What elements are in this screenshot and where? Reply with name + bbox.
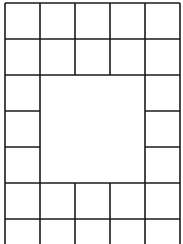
grid-diagram — [0, 0, 183, 244]
